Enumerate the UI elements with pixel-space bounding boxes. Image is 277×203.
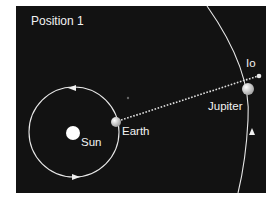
sun-label: Sun — [81, 136, 101, 148]
orbit-arrow-icon — [249, 128, 255, 135]
io — [257, 74, 262, 79]
jupiter — [242, 83, 254, 95]
sun — [66, 126, 80, 140]
sight-line — [118, 76, 258, 121]
jupiter-label: Jupiter — [208, 100, 243, 112]
earth-label: Earth — [122, 125, 150, 137]
star — [127, 97, 129, 99]
orbit-arrow-icon — [68, 85, 76, 91]
io-label: Io — [246, 57, 256, 69]
orbit-arrow-icon — [72, 174, 80, 180]
earth — [111, 117, 121, 127]
position-title: Position 1 — [31, 14, 84, 28]
